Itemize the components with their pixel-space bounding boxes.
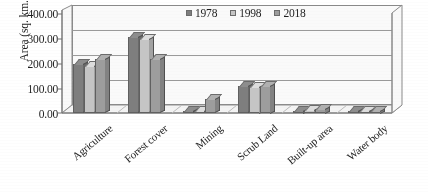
legend-item[interactable]: 1978 bbox=[186, 7, 217, 19]
chart-legend: 197819982018 bbox=[186, 7, 306, 19]
bar[interactable] bbox=[183, 111, 194, 113]
bar[interactable] bbox=[73, 64, 84, 113]
bar[interactable] bbox=[128, 37, 139, 113]
bar[interactable] bbox=[150, 59, 161, 113]
bar[interactable] bbox=[370, 111, 381, 114]
bar[interactable] bbox=[205, 99, 216, 113]
x-tick-label: Forest cover bbox=[0, 122, 169, 192]
bar[interactable] bbox=[84, 66, 95, 113]
bar[interactable] bbox=[95, 59, 106, 113]
bar[interactable] bbox=[249, 87, 260, 114]
bar[interactable] bbox=[139, 39, 150, 113]
bar[interactable] bbox=[348, 111, 359, 113]
bar[interactable] bbox=[194, 111, 205, 113]
bar-chart: Area (sq. km.) 400.00300.00200.00100.000… bbox=[0, 0, 428, 192]
legend-item[interactable]: 1998 bbox=[230, 7, 261, 19]
legend-swatch-icon bbox=[186, 10, 192, 16]
legend-item[interactable]: 2018 bbox=[274, 7, 305, 19]
bar[interactable] bbox=[359, 111, 370, 113]
legend-swatch-icon bbox=[230, 10, 236, 16]
bar[interactable] bbox=[293, 111, 304, 114]
bar[interactable] bbox=[238, 86, 249, 113]
legend-label: 2018 bbox=[283, 7, 305, 19]
bar[interactable] bbox=[260, 86, 271, 114]
bar[interactable] bbox=[304, 110, 315, 113]
legend-label: 1998 bbox=[239, 7, 261, 19]
bar[interactable] bbox=[315, 109, 326, 114]
legend-swatch-icon bbox=[274, 10, 280, 16]
legend-label: 1978 bbox=[195, 7, 217, 19]
